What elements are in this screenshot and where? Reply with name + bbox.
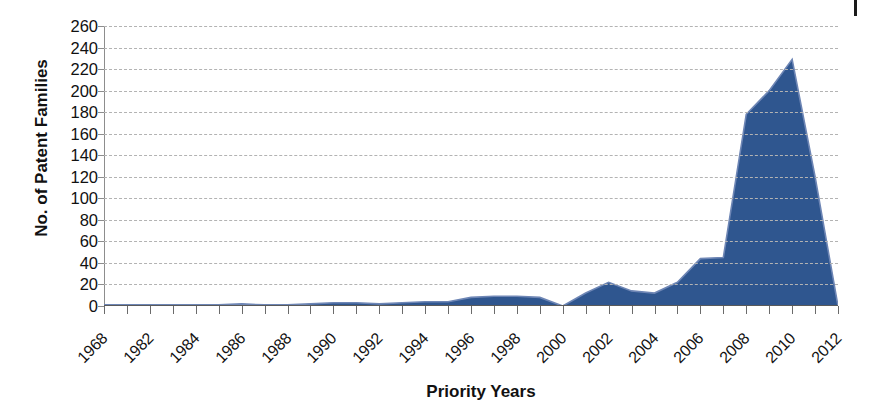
gridline-horizontal (104, 263, 838, 264)
x-tick-label: 1990 (303, 329, 340, 366)
x-tick-label: 1982 (120, 329, 157, 366)
gridline-horizontal (104, 26, 838, 27)
chart-figure: No. of Patent Families 02040608010012014… (0, 0, 872, 419)
x-tick-label: 1984 (166, 329, 203, 366)
x-axis-tick-labels: 1968198219841986198819901992199419961998… (0, 306, 872, 376)
x-tick-label: 1986 (212, 329, 249, 366)
y-tick-label: 60 (52, 233, 98, 250)
x-axis-title: Priority Years (0, 382, 872, 402)
x-tick-label: 1994 (395, 329, 432, 366)
y-tick-label: 20 (52, 276, 98, 293)
x-tick-label: 2012 (808, 329, 845, 366)
y-tick-label: 80 (52, 212, 98, 229)
x-tick-label: 1988 (258, 329, 295, 366)
y-tick-label: 200 (52, 82, 98, 99)
x-tick-label: 2004 (625, 329, 662, 366)
gridline-horizontal (104, 177, 838, 178)
gridline-horizontal (104, 112, 838, 113)
x-tick-label: 2006 (670, 329, 707, 366)
x-tick-label: 1996 (441, 329, 478, 366)
gridline-horizontal (104, 91, 838, 92)
y-tick-label: 260 (52, 18, 98, 35)
area-fill-path (104, 59, 838, 306)
y-tick-label: 100 (52, 190, 98, 207)
gridline-horizontal (104, 198, 838, 199)
x-axis-title-text: Priority Years (336, 382, 535, 402)
x-tick-label: 1998 (487, 329, 524, 366)
gridline-horizontal (104, 134, 838, 135)
y-tick-label: 220 (52, 61, 98, 78)
gridline-horizontal (104, 220, 838, 221)
y-tick-label: 40 (52, 255, 98, 272)
y-tick-label: 160 (52, 125, 98, 142)
area-series (104, 26, 838, 306)
x-tick-label: 1992 (349, 329, 386, 366)
scan-artifact-mark (854, 0, 857, 16)
gridline-horizontal (104, 241, 838, 242)
y-axis-title: No. of Patent Families (32, 18, 52, 278)
y-tick-label: 240 (52, 39, 98, 56)
gridline-horizontal (104, 69, 838, 70)
y-tick-label: 180 (52, 104, 98, 121)
gridline-horizontal (104, 155, 838, 156)
gridline-horizontal (104, 48, 838, 49)
x-tick-label: 2000 (533, 329, 570, 366)
x-tick-label: 2002 (579, 329, 616, 366)
y-tick-label: 140 (52, 147, 98, 164)
x-tick-label: 1968 (74, 329, 111, 366)
plot-area (104, 26, 838, 306)
y-tick-label: 120 (52, 169, 98, 186)
x-tick-label: 2008 (716, 329, 753, 366)
gridline-horizontal (104, 284, 838, 285)
x-tick-label: 2010 (762, 329, 799, 366)
